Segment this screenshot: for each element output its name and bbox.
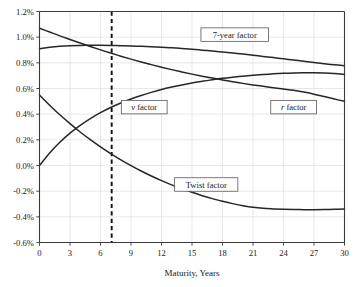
y-tick-label: 0.4% <box>16 109 34 119</box>
x-tick-label: 6 <box>98 248 103 258</box>
series-label-text: r factor <box>281 102 307 112</box>
y-tick-label: -0.4% <box>13 212 34 222</box>
y-tick-label: 0.0% <box>16 161 34 171</box>
series-label-text: v factor <box>131 102 157 112</box>
y-tick-label: -0.2% <box>13 186 34 196</box>
y-tick-label: 0.2% <box>16 135 34 145</box>
x-tick-label: 24 <box>279 248 288 258</box>
x-tick-label: 9 <box>129 248 133 258</box>
x-tick-label: 30 <box>340 248 349 258</box>
y-tick-label: 1.0% <box>16 32 34 42</box>
x-tick-label: 15 <box>188 248 197 258</box>
chart-background <box>0 0 359 287</box>
x-tick-label: 3 <box>68 248 72 258</box>
y-tick-label: -0.6% <box>13 238 34 248</box>
series-label-text: Twist factor <box>186 180 227 190</box>
y-tick-label: 0.8% <box>16 58 34 68</box>
y-tick-label: 0.6% <box>16 84 34 94</box>
series-label-7-year-factor: 7-year factor <box>201 28 269 41</box>
x-tick-label: 12 <box>157 248 166 258</box>
x-axis-title: Maturity, Years <box>164 268 220 278</box>
x-tick-label: 27 <box>310 248 319 258</box>
series-label-r-factor: r factor <box>271 100 317 114</box>
chart-container: 1.2%1.0%0.8%0.6%0.4%0.2%0.0%-0.2%-0.4%-0… <box>0 0 359 287</box>
y-tick-label: 1.2% <box>16 7 34 17</box>
x-tick-label: 18 <box>218 248 227 258</box>
x-tick-label: 0 <box>37 248 41 258</box>
x-tick-label: 21 <box>249 248 258 258</box>
series-label-text: 7-year factor <box>213 30 257 40</box>
series-label-v-factor: v factor <box>121 100 167 114</box>
factor-curves-chart: 1.2%1.0%0.8%0.6%0.4%0.2%0.0%-0.2%-0.4%-0… <box>0 0 359 287</box>
series-label-twist-factor: Twist factor <box>175 178 238 192</box>
